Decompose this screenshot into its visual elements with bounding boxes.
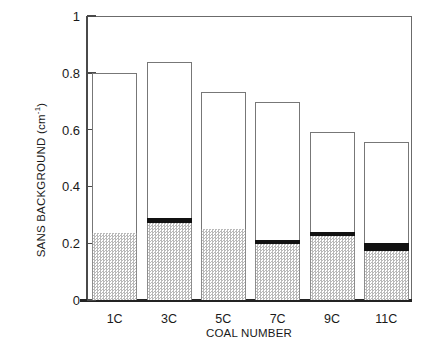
x-tick-label-7C: 7C — [270, 312, 286, 326]
bar-1C — [92, 16, 137, 300]
axis-right-spine — [411, 16, 412, 300]
y-tick-label: 0 — [73, 293, 80, 308]
bar-segment-hatched-11C — [364, 251, 409, 300]
x-tick-label-1C: 1C — [107, 312, 123, 326]
bar-segment-hatched-1C — [92, 233, 137, 300]
x-tick-label-9C: 9C — [324, 312, 340, 326]
x-tick-label-11C: 11C — [375, 312, 397, 326]
bar-segment-hatched-3C — [147, 223, 192, 300]
bar-11C — [364, 16, 409, 300]
y-tick-label: 0.2 — [62, 236, 80, 251]
bar-9C — [310, 16, 355, 300]
figure-canvas: SANS BACKGROUND (cm-1) 00.20.40.60.81 1C… — [0, 0, 438, 364]
y-axis-title-close: ) — [35, 103, 47, 107]
bar-7C — [255, 16, 300, 300]
bar-segment-hatched-7C — [255, 244, 300, 300]
plot-area: 00.20.40.60.81 1C3C5C7C9C11C — [86, 16, 412, 300]
y-tick-label: 0.8 — [62, 65, 80, 80]
bar-5C — [201, 16, 246, 300]
x-axis-title: COAL NUMBER — [86, 327, 412, 339]
y-tick-label: 1 — [73, 9, 80, 24]
axis-left-spine — [86, 16, 88, 300]
x-tick-label-3C: 3C — [161, 312, 177, 326]
y-tick-label: 0.6 — [62, 122, 80, 137]
bar-segment-hatched-5C — [201, 229, 246, 300]
bar-3C — [147, 16, 192, 300]
y-axis-title-text: SANS BACKGROUND (cm — [35, 114, 47, 257]
y-axis-title-exponent: -1 — [33, 107, 42, 115]
bar-segment-hatched-9C — [310, 236, 355, 300]
bar-segment-black-11C — [364, 243, 409, 251]
y-tick-label: 0.4 — [62, 179, 80, 194]
x-tick-label-5C: 5C — [215, 312, 231, 326]
y-axis-title: SANS BACKGROUND (cm-1) — [35, 55, 47, 305]
